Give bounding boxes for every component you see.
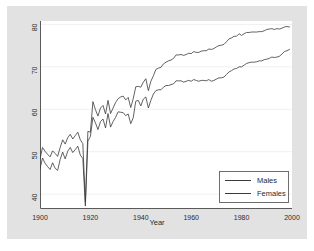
x-axis-title: Year (7, 218, 307, 227)
y-tick-label: 80 (31, 24, 38, 44)
legend-label-males: Males (257, 176, 277, 185)
chart-legend: Males Females (219, 171, 289, 203)
y-tick-label: 40 (31, 194, 38, 214)
y-tick-label: 70 (31, 66, 38, 86)
y-tick-label: 60 (31, 109, 38, 129)
legend-line-males (225, 180, 251, 181)
y-tick-label: 50 (31, 151, 38, 171)
legend-item-males: Males (220, 174, 288, 187)
legend-line-females (225, 193, 251, 194)
legend-label-females: Females (257, 189, 286, 198)
chart-figure: 1900192019401960198020004050607080 Year … (7, 6, 307, 239)
legend-item-females: Females (220, 187, 288, 200)
